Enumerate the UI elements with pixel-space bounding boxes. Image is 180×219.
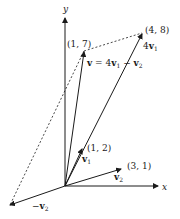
label-v1: v1 [81, 154, 91, 165]
point-label-4-8: (4, 8) [145, 25, 169, 35]
label-4v1: 4v1 [143, 41, 158, 52]
point-label-3-1: (3, 1) [127, 161, 151, 171]
vector-v2 [65, 169, 121, 186]
label-v-equation: v = 4v1 − v2 [86, 58, 143, 69]
y-axis-label: y [62, 4, 69, 14]
label-neg-v2: −v2 [32, 201, 49, 212]
point-label-1-7: (1, 7) [67, 39, 91, 49]
vector-diagram: y x (1, 7) (4, 8) (1, 2) (3, 1) v = 4v1 … [0, 0, 180, 219]
point-label-1-2: (1, 2) [87, 143, 111, 153]
dashed-line-top [84, 33, 142, 51]
x-axis-label: x [162, 182, 167, 192]
label-v2: v2 [113, 172, 123, 183]
